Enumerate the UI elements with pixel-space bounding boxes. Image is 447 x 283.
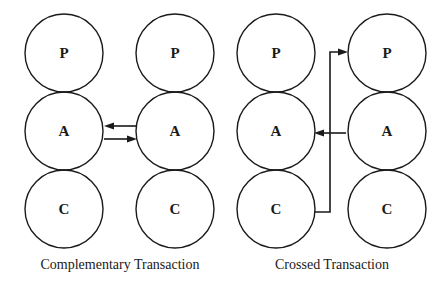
complementary-arrow-left-to-right: [104, 136, 137, 143]
crossed-arrow-child-to-parent: [315, 49, 348, 213]
state-label: P: [271, 45, 280, 61]
transaction-diagrams: P A C P A C P A C P A C: [0, 0, 447, 283]
state-label: P: [59, 45, 68, 61]
state-label: P: [382, 45, 391, 61]
crossed-right-person: P A C: [348, 14, 426, 248]
crossed-caption: Crossed Transaction: [222, 257, 442, 273]
complementary-right-person: P A C: [136, 14, 214, 248]
complementary-arrow-right-to-left: [104, 123, 136, 130]
crossed-left-person: P A C: [237, 14, 315, 248]
state-label: A: [382, 123, 393, 139]
state-label: C: [271, 201, 282, 217]
state-label: C: [59, 201, 70, 217]
complementary-left-person: P A C: [25, 14, 103, 248]
state-label: A: [59, 123, 70, 139]
complementary-caption: Complementary Transaction: [0, 257, 240, 273]
state-label: C: [170, 201, 181, 217]
state-label: A: [271, 123, 282, 139]
state-label: C: [382, 201, 393, 217]
state-label: P: [170, 45, 179, 61]
state-label: A: [170, 123, 181, 139]
